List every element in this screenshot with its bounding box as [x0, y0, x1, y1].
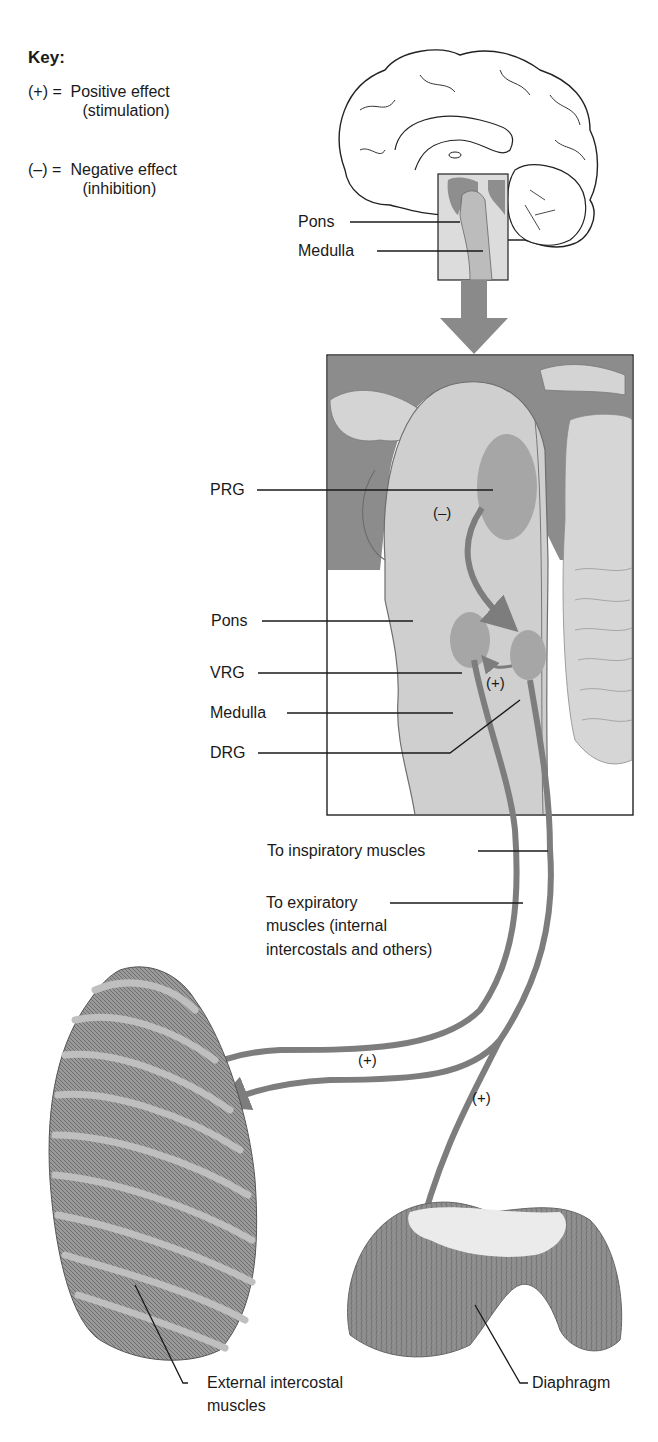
label-pons-overview: Pons [298, 212, 334, 231]
label-expiratory-pathway-line2: muscles (internal [266, 916, 387, 935]
diaphragm-illustration [348, 1202, 622, 1357]
key-title: Key: [28, 48, 65, 68]
label-diaphragm: Diaphragm [532, 1373, 610, 1392]
sign-ribcage-stimulation: (+) [358, 1051, 377, 1068]
key-symbol: (+) = [28, 82, 66, 101]
label-external-intercostal-line2: muscles [207, 1396, 266, 1415]
key-description: Negative effect (inhibition) [70, 160, 176, 198]
sign-diaphragm-stimulation: (+) [472, 1089, 491, 1106]
ribcage-illustration [49, 967, 257, 1360]
label-vrg: VRG [210, 663, 245, 682]
brain-outline-illustration [339, 50, 597, 280]
key-item-positive: (+) = Positive effect (stimulation) [28, 82, 170, 120]
label-drg: DRG [210, 743, 246, 762]
label-medulla-overview: Medulla [298, 241, 354, 260]
label-pons-detail: Pons [211, 611, 247, 630]
key-item-negative: (–) = Negative effect (inhibition) [28, 160, 177, 198]
sign-prg-inhibition: (–) [433, 504, 451, 521]
label-medulla-detail: Medulla [210, 703, 266, 722]
sign-vrg-drg-stimulation: (+) [486, 674, 505, 691]
zoom-arrow [440, 280, 508, 354]
label-expiratory-pathway-line1: To expiratory [266, 893, 358, 912]
key-symbol: (–) = [28, 160, 66, 179]
label-prg: PRG [210, 480, 245, 499]
label-inspiratory-pathway: To inspiratory muscles [267, 841, 425, 860]
key-description: Positive effect (stimulation) [70, 82, 169, 120]
label-external-intercostal-line1: External intercostal [207, 1373, 343, 1392]
label-expiratory-pathway-line3: intercostals and others) [266, 940, 432, 959]
brainstem-detail-illustration [327, 355, 633, 815]
